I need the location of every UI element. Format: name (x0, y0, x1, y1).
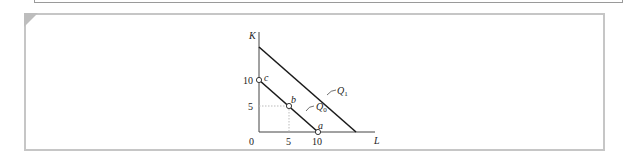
point-a-label: a (318, 120, 323, 131)
point-b-label: b (291, 94, 296, 105)
y-tick-5: 5 (248, 101, 253, 112)
x-tick-5: 5 (286, 136, 291, 147)
q1-label-sub: 1 (344, 90, 348, 98)
y-axis-label: K (248, 30, 257, 41)
origin-label: 0 (249, 136, 254, 147)
q0-label-sub: 0 (323, 106, 327, 114)
point-c (256, 77, 261, 82)
q0-leader (306, 106, 314, 111)
y-tick-10: 10 (243, 75, 253, 86)
q1-leader (327, 90, 336, 95)
x-tick-10: 10 (312, 136, 322, 147)
q1-label: Q1 (337, 85, 348, 98)
x-axis-label: L (373, 135, 380, 146)
q0-label: Q0 (316, 101, 327, 114)
isoquant-diagram: K L 0 5 10 5 10 c b a Q0 Q1 (0, 0, 624, 167)
point-c-label: c (264, 72, 269, 83)
